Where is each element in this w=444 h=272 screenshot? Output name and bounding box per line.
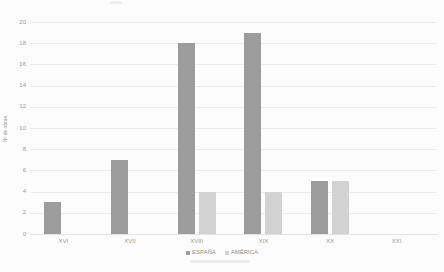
legend: ESPAÑA AMÉRICA bbox=[0, 249, 444, 256]
y-tick-label-12: 12 bbox=[0, 103, 26, 110]
bar-españa-xviii bbox=[178, 43, 195, 234]
scan-artifact-top bbox=[110, 1, 122, 4]
y-tick-label-20: 20 bbox=[0, 19, 26, 26]
america-swatch-icon bbox=[225, 251, 229, 255]
x-tick-label-xvii: XVII bbox=[108, 238, 152, 245]
legend-label-espana: ESPAÑA bbox=[192, 249, 216, 256]
y-tick-label-18: 18 bbox=[0, 40, 26, 47]
legend-item-espana: ESPAÑA bbox=[186, 249, 216, 256]
x-tick-label-xix: XIX bbox=[241, 238, 285, 245]
y-tick-label-2: 2 bbox=[0, 209, 26, 216]
gridline-y-8 bbox=[30, 149, 437, 150]
plot-area: 02468101214161820XVIXVIIXVIIIXIXXXXXI bbox=[0, 0, 444, 272]
x-tick-label-xx: XX bbox=[308, 238, 352, 245]
x-tick-label-xviii: XVIII bbox=[175, 238, 219, 245]
gridline-y-2 bbox=[30, 213, 437, 214]
gridline-y-12 bbox=[30, 107, 437, 108]
espana-swatch-icon bbox=[186, 251, 190, 255]
y-tick-label-4: 4 bbox=[0, 188, 26, 195]
bar-españa-xx bbox=[311, 181, 328, 234]
x-axis-line bbox=[30, 234, 437, 235]
gridline-y-10 bbox=[30, 128, 437, 129]
bar-españa-xvi bbox=[44, 202, 61, 234]
gridline-y-20 bbox=[30, 22, 437, 23]
y-tick-label-14: 14 bbox=[0, 82, 26, 89]
bar-américa-xviii bbox=[199, 192, 216, 234]
y-tick-label-6: 6 bbox=[0, 167, 26, 174]
gridline-y-6 bbox=[30, 170, 437, 171]
gridline-y-4 bbox=[30, 192, 437, 193]
x-tick-label-xxi: XXI bbox=[375, 238, 419, 245]
gridline-y-18 bbox=[30, 43, 437, 44]
gridline-y-14 bbox=[30, 86, 437, 87]
x-tick-label-xvi: XVI bbox=[41, 238, 85, 245]
y-tick-label-8: 8 bbox=[0, 146, 26, 153]
bar-américa-xix bbox=[265, 192, 282, 234]
gridline-y-16 bbox=[30, 64, 437, 65]
bar-españa-xvii bbox=[111, 160, 128, 234]
legend-label-america: AMÉRICA bbox=[231, 249, 258, 256]
scan-artifact-bottom bbox=[190, 260, 250, 263]
legend-item-america: AMÉRICA bbox=[225, 249, 258, 256]
bar-españa-xix bbox=[244, 33, 261, 234]
bar-américa-xx bbox=[332, 181, 349, 234]
y-tick-label-10: 10 bbox=[0, 125, 26, 132]
y-tick-label-16: 16 bbox=[0, 61, 26, 68]
chart-screenshot: Nº de obras 02468101214161820XVIXVIIXVII… bbox=[0, 0, 444, 272]
y-tick-label-0: 0 bbox=[0, 231, 26, 238]
